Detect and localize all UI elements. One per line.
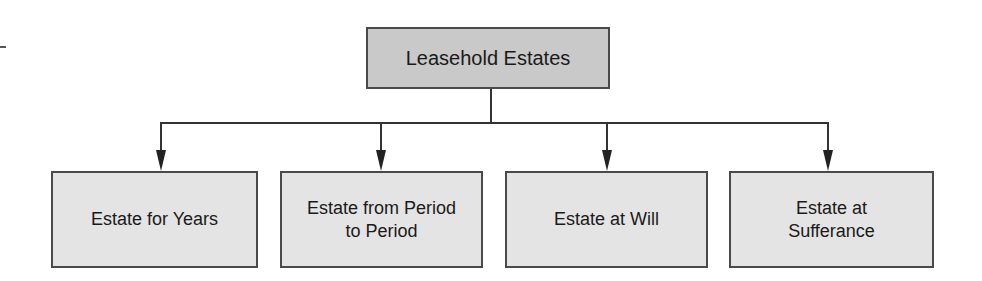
- child-node-label: Estate at: [788, 197, 875, 220]
- arrowhead-icon: [823, 150, 833, 171]
- edge-artifact-mark: [0, 46, 6, 48]
- child-node-label: Estate from Period: [307, 197, 456, 220]
- child-node-label: Estate at Will: [554, 208, 659, 231]
- child-node-label: Estate for Years: [91, 208, 218, 231]
- child-node-estate-at-sufferance: Estate at Sufferance: [729, 171, 934, 268]
- child-node-estate-from-period-to-period: Estate from Period to Period: [280, 171, 483, 268]
- child-node-label-line2: Sufferance: [788, 220, 875, 243]
- child-node-estate-for-years: Estate for Years: [51, 171, 258, 268]
- child-node-label-line2: to Period: [307, 220, 456, 243]
- root-node-leasehold-estates: Leasehold Estates: [366, 27, 610, 89]
- arrowhead-icon: [602, 150, 612, 171]
- arrowhead-icon: [156, 150, 166, 171]
- leasehold-estates-diagram: Leasehold Estates Estate for Years Estat…: [0, 0, 982, 281]
- arrowhead-icon: [376, 150, 386, 171]
- child-node-estate-at-will: Estate at Will: [505, 171, 708, 268]
- root-node-label: Leasehold Estates: [406, 47, 571, 70]
